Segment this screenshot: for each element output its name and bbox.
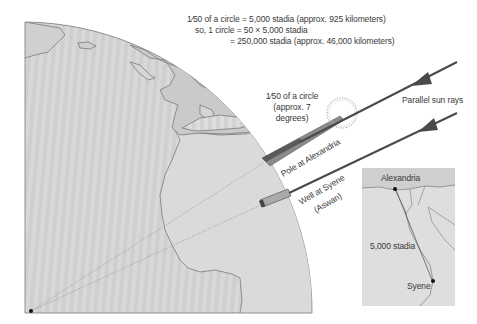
- inset-alexandria-label: Alexandria: [381, 173, 420, 184]
- angle-label-line-2: (approx. 7: [262, 102, 322, 113]
- equation-line-1: 1⁄50 of a circle = 5,000 stadia (approx.…: [187, 14, 386, 25]
- inset-syene-label: Syene: [407, 281, 431, 292]
- inset-distance-label: 5,000 stadia: [370, 241, 415, 252]
- globe: [25, 22, 312, 313]
- syene-dot: [431, 279, 435, 283]
- equation-line-3: = 250,000 stadia (approx. 46,000 kilomet…: [230, 36, 395, 47]
- equation-line-2: so, 1 circle = 50 × 5,000 stadia: [195, 25, 308, 36]
- angle-label-line-1: 1⁄50 of a circle: [262, 91, 322, 102]
- earth-center-dot: [29, 309, 33, 313]
- alexandria-dot: [393, 187, 397, 191]
- angle-label: 1⁄50 of a circle (approx. 7 degrees): [262, 91, 322, 124]
- angle-label-line-3: degrees): [262, 113, 322, 124]
- sun-rays-label: Parallel sun rays: [402, 95, 463, 106]
- eratosthenes-diagram: 1⁄50 of a circle = 5,000 stadia (approx.…: [0, 0, 477, 324]
